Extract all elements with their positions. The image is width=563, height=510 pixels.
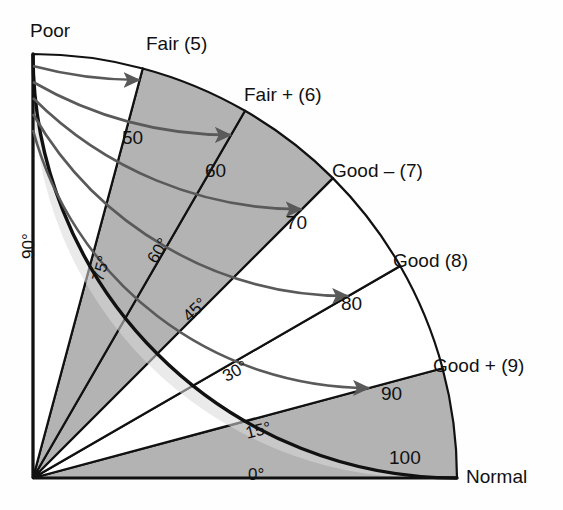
grade-label-good-plus-9: Good + (9) xyxy=(433,355,524,377)
grade-label-poor: Poor xyxy=(30,20,70,42)
grade-label-fair-plus-6: Fair + (6) xyxy=(244,84,322,106)
scale-label-100: 100 xyxy=(389,447,421,469)
scale-label-90: 90 xyxy=(381,383,402,405)
grade-label-good-8: Good (8) xyxy=(393,250,468,272)
goniometer-diagram xyxy=(0,0,563,510)
grade-label-good-minus-7: Good – (7) xyxy=(332,160,423,182)
scale-label-80: 80 xyxy=(341,293,362,315)
figure-canvas: Poor Fair (5) Fair + (6) Good – (7) Good… xyxy=(0,0,563,510)
angle-label-90: 90° xyxy=(19,233,39,259)
scale-label-70: 70 xyxy=(286,212,307,234)
grade-label-normal: Normal xyxy=(466,466,527,488)
scale-label-60: 60 xyxy=(205,160,226,182)
scale-label-50: 50 xyxy=(122,127,143,149)
angle-label-0: 0° xyxy=(248,465,264,485)
grade-label-fair-5: Fair (5) xyxy=(146,33,207,55)
